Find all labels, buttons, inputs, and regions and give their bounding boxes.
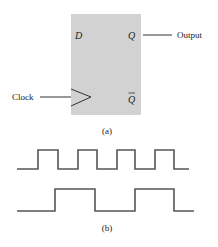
diagram-canvas: D Q Q Output Clock (a) (b) [0, 0, 218, 247]
caption-b: (b) [102, 223, 113, 233]
q-bar-output-label: Q [128, 94, 136, 105]
output-text: Output [177, 30, 203, 40]
q-output-label: Q [128, 30, 136, 41]
d-input-label: D [74, 30, 83, 41]
clock-waveform [17, 150, 189, 169]
output-waveform [17, 189, 194, 211]
clock-text: Clock [12, 92, 34, 102]
caption-a: (a) [102, 126, 112, 136]
